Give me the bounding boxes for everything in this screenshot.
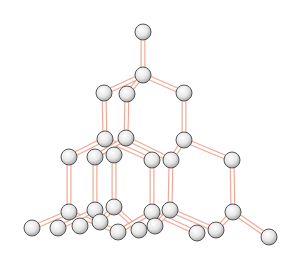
atom xyxy=(147,218,163,234)
atom xyxy=(118,130,134,146)
atom xyxy=(261,229,277,245)
atom xyxy=(189,225,205,241)
atom xyxy=(176,132,192,148)
atom xyxy=(119,86,135,102)
atom xyxy=(162,202,178,218)
atom xyxy=(135,24,151,40)
atom xyxy=(176,85,192,101)
atom xyxy=(92,214,108,230)
atom xyxy=(224,152,240,168)
lattice-svg xyxy=(0,0,296,259)
atom xyxy=(106,147,122,163)
atom xyxy=(144,152,160,168)
atom xyxy=(110,224,126,240)
atom xyxy=(50,220,66,236)
atom xyxy=(87,149,103,165)
atom xyxy=(24,220,40,236)
atom xyxy=(96,85,112,101)
atom xyxy=(208,222,224,238)
atom xyxy=(106,199,122,215)
atom xyxy=(61,149,77,165)
atom xyxy=(225,204,241,220)
atom xyxy=(135,67,151,83)
atom xyxy=(163,152,179,168)
atom xyxy=(144,204,160,220)
atom xyxy=(131,222,147,238)
diamond-lattice-diagram xyxy=(0,0,296,259)
atom xyxy=(72,218,88,234)
atom xyxy=(97,131,113,147)
atom xyxy=(61,204,77,220)
atoms-group xyxy=(24,24,277,245)
